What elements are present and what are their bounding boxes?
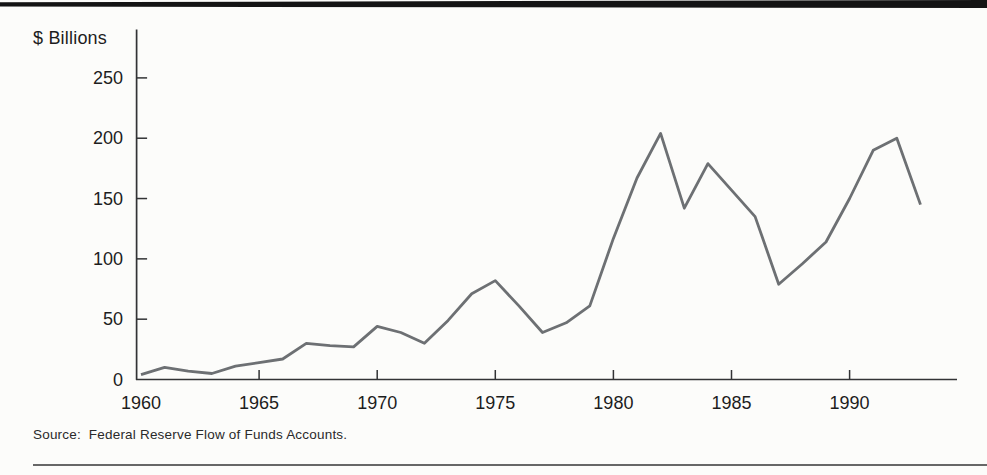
y-tick-label: 150 [63,188,123,210]
x-tick-label: 1970 [342,392,412,414]
source-note: Source: Federal Reserve Flow of Funds Ac… [33,427,347,442]
y-tick-label: 100 [63,248,123,270]
scanned-chart-page: $ Billions 250200150100500 1960196519701… [0,0,987,475]
x-tick-label: 1990 [815,392,885,414]
chart-area: 250200150100500 196019651970197519801985… [0,0,987,475]
data-line [141,133,921,374]
x-tick-label: 1980 [578,392,648,414]
x-tick-label: 1985 [697,392,767,414]
x-tick-label: 1975 [460,392,530,414]
x-tick-label: 1960 [106,392,176,414]
y-tick-label: 200 [63,127,123,149]
y-tick-label: 0 [63,369,123,391]
y-tick-label: 250 [63,67,123,89]
x-tick-label: 1965 [224,392,294,414]
y-tick-label: 50 [63,308,123,330]
bottom-rule [33,464,987,466]
axes [137,30,957,380]
